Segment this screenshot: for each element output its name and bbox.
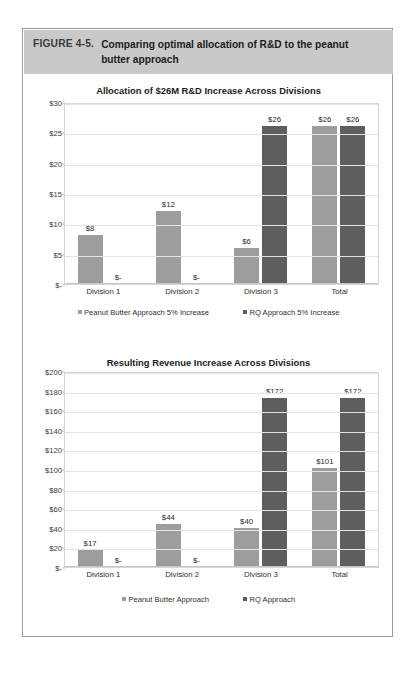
y-axis-tick-label: $- [28, 564, 62, 573]
bar-value-label: $40 [240, 517, 253, 526]
bar-wrapper: $8 [78, 104, 103, 284]
bar-wrapper: $6 [234, 104, 259, 284]
bar-value-label: $26 [318, 115, 331, 124]
bar-value-label: $26 [268, 115, 281, 124]
x-axis-label: Division 1 [64, 570, 143, 579]
bar-value-label: $12 [162, 200, 175, 209]
x-axis-label: Division 3 [222, 570, 301, 579]
y-axis-tick-label: $- [28, 281, 62, 290]
bar[interactable] [262, 398, 287, 567]
bar-group: $44$- [143, 373, 221, 567]
y-axis-tick-label: $25 [28, 129, 62, 138]
bar[interactable] [234, 528, 259, 567]
bar-wrapper: $- [106, 373, 131, 567]
y-axis-tick-label: $160 [28, 407, 62, 416]
bar-wrapper: $172 [262, 373, 287, 567]
bar-wrapper: $101 [312, 373, 337, 567]
bar-value-label: $- [115, 273, 122, 282]
chart-allocation: Allocation of $26M R&D Increase Across D… [24, 75, 393, 345]
bar-value-label: $17 [84, 539, 97, 548]
legend-swatch-icon [243, 310, 247, 314]
y-axis-tick-label: $100 [28, 466, 62, 475]
y-axis-tick-label: $15 [28, 190, 62, 199]
gridline [65, 256, 378, 257]
gridline [65, 412, 378, 413]
bar[interactable] [78, 235, 103, 284]
bar-groups: $17$-$44$-$40$172$101$172 [65, 373, 378, 567]
y-axis-tick-label: $20 [28, 159, 62, 168]
y-axis-tick-label: $60 [28, 505, 62, 514]
y-axis-tick-label: $200 [28, 368, 62, 377]
legend-item[interactable]: RQ Approach 5% Increase [243, 308, 339, 317]
gridline [65, 510, 378, 511]
gridline [65, 134, 378, 135]
bar-wrapper: $26 [262, 104, 287, 284]
legend-item[interactable]: RQ Approach [243, 595, 295, 604]
chart-legend: Peanut Butter ApproachRQ Approach [24, 595, 393, 604]
bar-wrapper: $12 [156, 104, 181, 284]
gridline [65, 373, 378, 374]
y-axis-tick-label: $5 [28, 250, 62, 259]
bar-group: $6$26 [222, 104, 300, 284]
x-axis-line [65, 566, 378, 567]
bar-value-label: $26 [346, 115, 359, 124]
bar[interactable] [78, 550, 103, 567]
bar[interactable] [340, 398, 365, 567]
bar-group: $101$172 [300, 373, 378, 567]
gridline [65, 549, 378, 550]
bar[interactable] [340, 126, 365, 284]
gridline [65, 225, 378, 226]
y-axis-tick-label: $140 [28, 426, 62, 435]
y-axis-ticks: $-$5$10$15$20$25$30 [24, 103, 62, 285]
y-axis-tick-label: $120 [28, 446, 62, 455]
legend-label: RQ Approach [250, 595, 296, 604]
y-axis-tick-label: $40 [28, 524, 62, 533]
x-axis-label: Division 2 [143, 570, 222, 579]
x-axis-label: Division 1 [64, 287, 143, 296]
bar-value-label: $44 [162, 513, 175, 522]
bar[interactable] [234, 248, 259, 284]
bar-value-label: $101 [316, 457, 333, 466]
legend-swatch-icon [243, 597, 247, 601]
bar-wrapper: $- [106, 104, 131, 284]
figure-caption-bar: FIGURE 4-5. Comparing optimal allocation… [24, 30, 393, 74]
gridline [65, 471, 378, 472]
plot-area: $8$-$12$-$6$26$26$26 [64, 103, 379, 285]
bar[interactable] [312, 468, 337, 567]
y-axis-tick-label: $30 [28, 99, 62, 108]
bar[interactable] [156, 211, 181, 284]
bar-wrapper: $40 [234, 373, 259, 567]
figure-container: FIGURE 4-5. Comparing optimal allocation… [22, 28, 393, 637]
bar-wrapper: $- [184, 104, 209, 284]
chart-title: Allocation of $26M R&D Increase Across D… [24, 85, 393, 96]
y-axis-ticks: $-$20$40$60$80$100$120$140$160$180$200 [24, 372, 62, 568]
bar-wrapper: $172 [340, 373, 365, 567]
chart-legend: Peanut Butter Approach 5% IncreaseRQ App… [24, 308, 393, 317]
bar-wrapper: $26 [312, 104, 337, 284]
chart-revenue: Resulting Revenue Increase Across Divisi… [24, 347, 393, 637]
gridline [65, 432, 378, 433]
legend-item[interactable]: Peanut Butter Approach [122, 595, 209, 604]
legend-label: Peanut Butter Approach [128, 595, 209, 604]
plot-area: $17$-$44$-$40$172$101$172 [64, 372, 379, 568]
gridline [65, 104, 378, 105]
gridline [65, 530, 378, 531]
legend-item[interactable]: Peanut Butter Approach 5% Increase [78, 308, 209, 317]
chart-title: Resulting Revenue Increase Across Divisi… [24, 357, 393, 368]
legend-label: RQ Approach 5% Increase [250, 308, 340, 317]
bar-group: $12$- [143, 104, 221, 284]
x-axis-labels: Division 1Division 2Division 3Total [64, 570, 379, 579]
bar-group: $8$- [65, 104, 143, 284]
bar[interactable] [262, 126, 287, 284]
legend-swatch-icon [78, 310, 82, 314]
bar[interactable] [312, 126, 337, 284]
x-axis-label: Total [300, 287, 379, 296]
y-axis-tick-label: $80 [28, 485, 62, 494]
bar-value-label: $6 [242, 237, 251, 246]
bar-wrapper: $26 [340, 104, 365, 284]
gridline [65, 195, 378, 196]
bar-group: $17$- [65, 373, 143, 567]
figure-number-label: FIGURE 4-5. [33, 37, 94, 49]
bar-wrapper: $44 [156, 373, 181, 567]
gridline [65, 165, 378, 166]
